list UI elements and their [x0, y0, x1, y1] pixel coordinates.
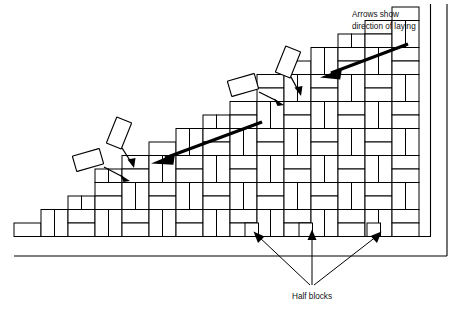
- paving-block-horizontal: [14, 223, 41, 237]
- paving-block-vertical: [149, 156, 163, 183]
- half-blocks-label: Half blocks: [292, 292, 332, 301]
- paving-block-vertical: [284, 183, 298, 210]
- paving-block-vertical: [365, 102, 379, 129]
- paving-block-vertical: [271, 102, 285, 129]
- paving-block-horizontal: [365, 88, 392, 102]
- paving-block-horizontal: [365, 196, 392, 210]
- paving-block-vertical: [406, 75, 420, 102]
- paving-block-horizontal: [392, 102, 419, 116]
- paving-block-vertical: [311, 48, 325, 75]
- paving-block-vertical: [109, 210, 123, 237]
- paving-block-vertical: [68, 196, 82, 210]
- loose-block-shallow-left: [72, 148, 103, 171]
- paving-block-vertical: [217, 156, 231, 183]
- paving-block-horizontal: [392, 210, 419, 224]
- paving-block-horizontal: [365, 34, 392, 48]
- paving-block-horizontal: [338, 115, 365, 129]
- paving-block-vertical: [392, 75, 406, 102]
- paving-block-horizontal: [257, 183, 284, 197]
- paving-block-horizontal: [230, 210, 257, 224]
- paving-block-vertical: [217, 115, 231, 129]
- paving-block-horizontal: [257, 196, 284, 210]
- paving-block-vertical: [244, 129, 258, 156]
- paving-block-vertical: [298, 129, 312, 156]
- paving-block-vertical: [82, 196, 96, 210]
- paving-block-horizontal: [257, 75, 284, 89]
- direction-label-line2: direction of laying: [352, 22, 416, 31]
- paving-block-vertical: [203, 210, 217, 237]
- paving-block-horizontal: [257, 142, 284, 156]
- paving-block-horizontal: [68, 210, 95, 224]
- paving-block-vertical: [55, 210, 69, 237]
- paving-block-vertical: [149, 210, 163, 237]
- paving-block-horizontal: [365, 75, 392, 89]
- paving-block-horizontal: [311, 183, 338, 197]
- paving-block-horizontal: [257, 88, 284, 102]
- paving-block-horizontal: [230, 169, 257, 183]
- paving-block-vertical: [352, 34, 366, 48]
- direction-label-line1: Arrows show: [352, 10, 399, 19]
- paving-block-horizontal: [284, 102, 311, 116]
- paving-block-vertical: [379, 156, 393, 183]
- paving-block-vertical: [352, 183, 366, 210]
- paving-block-horizontal: [392, 61, 419, 75]
- paving-block-vertical: [325, 210, 339, 237]
- paving-block-horizontal: [311, 129, 338, 143]
- paving-block-vertical: [392, 183, 406, 210]
- loose-block-shallow-right: [227, 73, 258, 96]
- paving-block-horizontal: [284, 156, 311, 170]
- paving-block-horizontal: [311, 88, 338, 102]
- paving-block-vertical: [176, 183, 190, 210]
- paving-block-vertical: [271, 210, 285, 237]
- paving-block-horizontal: [392, 115, 419, 129]
- paving-block-vertical: [338, 129, 352, 156]
- paving-block-vertical: [284, 129, 298, 156]
- paving-block-vertical: [352, 129, 366, 156]
- paving-block-horizontal: [203, 183, 230, 197]
- paving-block-horizontal: [338, 156, 365, 170]
- paving-block-vertical: [257, 210, 271, 237]
- paving-block-horizontal: [230, 156, 257, 170]
- paving-block-vertical: [392, 129, 406, 156]
- paving-block-vertical: [311, 156, 325, 183]
- paving-block-vertical: [325, 102, 339, 129]
- paving-block-vertical: [163, 210, 177, 237]
- paving-block-vertical: [352, 75, 366, 102]
- paving-block-horizontal: [284, 115, 311, 129]
- paving-block-horizontal: [149, 196, 176, 210]
- paving-block-horizontal: [176, 169, 203, 183]
- loose-block-steep-left: [106, 117, 131, 149]
- paving-block-horizontal: [392, 169, 419, 183]
- paving-block-horizontal: [122, 223, 149, 237]
- paving-block-vertical: [365, 156, 379, 183]
- paving-block-horizontal: [122, 210, 149, 224]
- paving-block-horizontal: [284, 210, 311, 224]
- paving-block-horizontal: [365, 129, 392, 143]
- paving-block-vertical: [338, 34, 352, 48]
- half-block-pointer-left-shaft: [258, 236, 310, 285]
- paving-block-vertical: [230, 183, 244, 210]
- paving-block-horizontal: [311, 142, 338, 156]
- paving-block-horizontal: [338, 210, 365, 224]
- paving-block-vertical: [257, 156, 271, 183]
- paving-block-vertical: [338, 183, 352, 210]
- paving-block-horizontal: [149, 183, 176, 197]
- paving-block-horizontal: [311, 196, 338, 210]
- paving-block-vertical: [298, 183, 312, 210]
- paving-block-horizontal: [257, 129, 284, 143]
- half-block-pointers: [254, 230, 382, 286]
- paving-block-horizontal: [338, 223, 365, 237]
- paving-field: [14, 7, 419, 237]
- paving-block-vertical: [406, 183, 420, 210]
- paving-block-horizontal: [338, 102, 365, 116]
- paving-block-horizontal: [95, 196, 122, 210]
- paving-block-vertical: [203, 156, 217, 183]
- paving-block-horizontal: [392, 156, 419, 170]
- paving-block-horizontal: [338, 169, 365, 183]
- paving-block-horizontal: [392, 223, 419, 237]
- paving-block-vertical: [95, 210, 109, 237]
- paving-block-vertical: [95, 169, 109, 183]
- paving-block-vertical: [122, 183, 136, 210]
- paving-block-vertical: [311, 102, 325, 129]
- diagram-canvas: Arrows show direction of laying Half blo…: [0, 0, 464, 310]
